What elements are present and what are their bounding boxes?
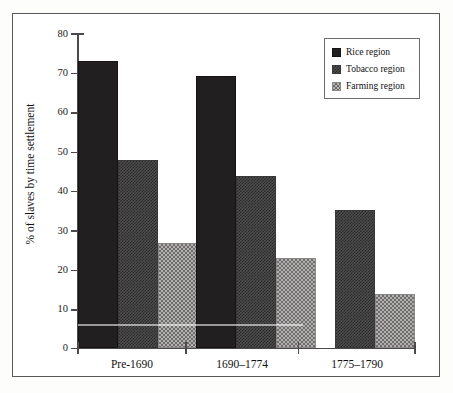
bar-farming-pre-1690 [158,243,198,349]
x-tick-sep-2 [298,342,300,354]
x-tick-start [77,342,79,354]
y-tick-label-50: 50 [42,147,68,158]
y-tick-80 [71,33,84,35]
y-tick-label-40-wrap: 40 [40,186,68,197]
y-tick-label-60-wrap: 60 [40,107,68,118]
bar-tobacco-1690-1774 [236,176,276,348]
legend-item-rice: Rice region [332,44,390,60]
y-tick-label-80: 80 [42,29,68,40]
x-category-label-1690-1774: 1690–1774 [187,358,297,370]
y-tick-label-70-wrap: 70 [40,68,68,79]
chart-figure: % of slaves by time settlement 80 70 60 … [0,0,453,393]
y-tick-label-50-wrap: 50 [40,147,68,158]
legend-label-farming: Farming region [346,81,405,91]
y-tick-label-10-wrap: 10 [40,304,68,315]
y-tick-label-0: 0 [42,343,68,354]
legend-label-rice: Rice region [346,47,390,57]
legend-label-tobacco: Tobacco region [346,64,405,74]
y-tick-label-20-wrap: 20 [40,265,68,276]
x-tick-end [414,342,416,354]
x-category-label-pre-1690: Pre-1690 [78,358,186,370]
y-tick-label-40: 40 [42,186,68,197]
legend-swatch-rice-icon [332,48,341,57]
y-tick-label-30: 30 [42,226,68,237]
bar-tobacco-pre-1690 [118,160,158,348]
y-tick-label-0-wrap: 0 [40,343,68,354]
bar-rice-pre-1690 [78,61,118,348]
bar-farming-1690-1774 [276,258,316,348]
plot-area: % of slaves by time settlement 80 70 60 … [0,0,453,393]
legend-swatch-tobacco-icon [332,65,341,74]
y-tick-label-60: 60 [42,107,68,118]
x-tick-sep-1 [185,342,187,354]
legend-item-tobacco: Tobacco region [332,61,405,77]
chart-legend: Rice region Tobacco region Farming regio… [324,38,420,99]
x-category-label-1775-1790: 1775–1790 [299,358,415,370]
y-tick-label-10: 10 [42,304,68,315]
y-tick-label-30-wrap: 30 [40,226,68,237]
bar-farming-1775-1790 [375,294,415,348]
y-axis-title: % of slaves by time settlement [24,84,36,264]
legend-item-farming: Farming region [332,78,405,94]
bar-rice-1690-1774 [196,76,236,348]
y-tick-label-70: 70 [42,68,68,79]
y-tick-label-20: 20 [42,265,68,276]
legend-swatch-farming-icon [332,82,341,91]
y-tick-label-80-wrap: 80 [40,29,68,40]
bar-tobacco-1775-1790 [335,210,375,348]
